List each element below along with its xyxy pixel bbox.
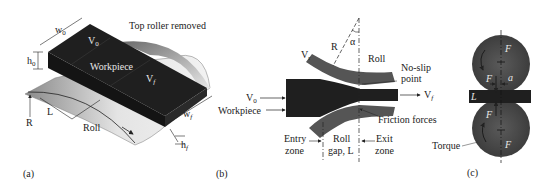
entry-zone-label-2: zone xyxy=(285,145,304,156)
entry-zone-label: Entry xyxy=(284,133,306,144)
panel-a: Top roller removed w0 h0 V0 Workpiece Vf… xyxy=(23,18,212,180)
vr-label: Vr xyxy=(301,49,311,62)
panel-c: F F a L F F Torque (c) xyxy=(432,30,531,179)
exit-zone-label-2: zone xyxy=(375,145,394,156)
panel-a-caption: (a) xyxy=(23,168,34,180)
workpiece-c xyxy=(469,90,531,103)
roll-gap-label-2: gap, L xyxy=(328,145,354,156)
v0-label-b: V0 xyxy=(246,92,257,105)
roll-gap-label: Roll xyxy=(333,133,350,144)
hf-label: hf xyxy=(181,139,189,152)
force-F-top: F xyxy=(504,43,512,54)
w0-label: w0 xyxy=(55,24,66,37)
friction-forces-label: Friction forces xyxy=(378,114,437,125)
force-F-bottom: F xyxy=(504,139,512,150)
wf-label: wf xyxy=(183,108,193,121)
workpiece-label: Workpiece xyxy=(90,61,134,72)
alpha-arc xyxy=(352,30,359,32)
rolling-process-figure: Top roller removed w0 h0 V0 Workpiece Vf… xyxy=(0,0,553,186)
no-slip-label-2: point xyxy=(401,73,422,84)
exit-zone-label: Exit xyxy=(376,133,393,144)
vf-label-b: Vf xyxy=(424,89,434,102)
alpha-label: α xyxy=(350,36,356,47)
top-roller-removed-note: Top roller removed xyxy=(129,20,206,31)
R-label-b: R xyxy=(331,41,338,52)
h0-label: h0 xyxy=(27,55,36,68)
workpiece-label-b: Workpiece xyxy=(218,105,262,116)
contact-L-label: L xyxy=(470,91,477,102)
no-slip-label: No-slip xyxy=(401,62,431,73)
torque-label: Torque xyxy=(432,140,461,151)
hf-dimension xyxy=(170,129,178,142)
roll-label: Roll xyxy=(83,122,100,133)
roll-label-b: Roll xyxy=(368,53,385,64)
panel-c-caption: (c) xyxy=(467,167,478,179)
R-label: R xyxy=(26,117,33,128)
panel-b-caption: (b) xyxy=(216,168,228,180)
torque-leader xyxy=(462,142,478,146)
offset-a-label: a xyxy=(508,72,513,83)
force-F-left-top: F xyxy=(485,73,493,84)
panel-b: Vr R α Roll No-slip point V0 Workpiece V… xyxy=(216,18,437,180)
L-label: L xyxy=(47,106,53,117)
force-F-left-bottom: F xyxy=(485,109,493,120)
